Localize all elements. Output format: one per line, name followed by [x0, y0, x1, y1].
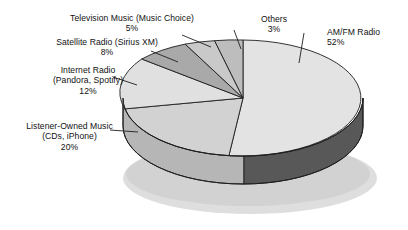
slice-label-amfm: AM/FM Radio 52%	[327, 27, 405, 48]
slice-label-internet-radio-name: Internet Radio	[22, 65, 154, 75]
slice-label-amfm-value: 52%	[327, 37, 405, 47]
slice-label-others-value: 3%	[243, 24, 305, 34]
slice-label-listener-owned: Listener-Owned Music (CDs, iPhone) 20%	[2, 121, 137, 152]
slice-label-television-music: Television Music (Music Choice) 5%	[48, 13, 216, 34]
slice-label-satellite-radio: Satellite Radio (Sirius XM) 8%	[32, 37, 182, 58]
slice-label-internet-radio: Internet Radio (Pandora, Spotify) 12%	[22, 65, 154, 96]
slice-label-internet-radio-detail: (Pandora, Spotify)	[22, 75, 154, 85]
slice-label-amfm-name: AM/FM Radio	[327, 27, 405, 37]
slice-label-listener-owned-detail: (CDs, iPhone)	[2, 131, 137, 141]
slice-label-others: Others 3%	[243, 14, 305, 35]
slice-label-television-music-name: Television Music (Music Choice)	[48, 13, 216, 23]
slice-label-internet-radio-value: 12%	[22, 86, 154, 96]
pie-chart: Television Music (Music Choice) 5% Satel…	[0, 0, 408, 230]
slice-label-listener-owned-value: 20%	[2, 142, 137, 152]
slice-label-listener-owned-name: Listener-Owned Music	[2, 121, 137, 131]
slice-label-satellite-radio-value: 8%	[32, 47, 182, 57]
slice-label-others-name: Others	[243, 14, 305, 24]
slice-label-satellite-radio-name: Satellite Radio (Sirius XM)	[32, 37, 182, 47]
slice-label-television-music-value: 5%	[48, 23, 216, 33]
